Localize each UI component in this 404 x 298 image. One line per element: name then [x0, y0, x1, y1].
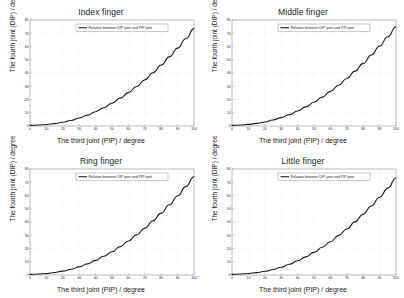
svg-text:50: 50 [312, 127, 316, 131]
svg-text:20: 20 [227, 247, 231, 251]
plot-area-ring-finger: 010203040506070809010001020304050607080R… [0, 149, 202, 298]
svg-text:10: 10 [227, 111, 231, 115]
svg-text:30: 30 [77, 127, 81, 131]
svg-text:0: 0 [29, 127, 31, 131]
svg-text:60: 60 [25, 45, 29, 49]
svg-text:30: 30 [227, 234, 231, 238]
svg-text:80: 80 [25, 18, 29, 22]
svg-text:20: 20 [263, 127, 267, 131]
svg-text:60: 60 [227, 194, 231, 198]
svg-text:100: 100 [393, 276, 399, 280]
svg-text:70: 70 [345, 127, 349, 131]
svg-text:Relation between DIP joint and: Relation between DIP joint and PIP joint [291, 175, 355, 179]
svg-text:60: 60 [227, 45, 231, 49]
svg-text:20: 20 [227, 98, 231, 102]
svg-text:0: 0 [231, 276, 233, 280]
plot-area-little-finger: 010203040506070809010001020304050607080R… [202, 149, 404, 298]
svg-text:90: 90 [378, 127, 382, 131]
svg-text:Relation between DIP joint and: Relation between DIP joint and PIP joint [89, 175, 153, 179]
figure-canvas: Index finger 010203040506070809010001020… [0, 0, 404, 298]
svg-text:50: 50 [227, 207, 231, 211]
svg-text:20: 20 [25, 247, 29, 251]
svg-text:40: 40 [94, 276, 98, 280]
svg-text:10: 10 [45, 127, 49, 131]
svg-text:40: 40 [227, 220, 231, 224]
svg-text:30: 30 [227, 85, 231, 89]
svg-text:80: 80 [159, 127, 163, 131]
svg-text:80: 80 [361, 276, 365, 280]
svg-text:30: 30 [25, 85, 29, 89]
svg-text:40: 40 [25, 220, 29, 224]
svg-text:40: 40 [94, 127, 98, 131]
svg-text:80: 80 [25, 167, 29, 171]
svg-text:60: 60 [127, 276, 131, 280]
svg-text:70: 70 [25, 32, 29, 36]
svg-text:0: 0 [231, 127, 233, 131]
svg-text:50: 50 [25, 58, 29, 62]
svg-text:70: 70 [227, 181, 231, 185]
svg-text:0: 0 [27, 273, 29, 277]
subplot-middle-finger: Middle finger 01020304050607080901000102… [202, 0, 404, 149]
svg-text:0: 0 [229, 273, 231, 277]
svg-text:0: 0 [229, 124, 231, 128]
svg-text:50: 50 [312, 276, 316, 280]
subplot-ring-finger: Ring finger 0102030405060708090100010203… [0, 149, 202, 298]
svg-text:40: 40 [296, 276, 300, 280]
svg-text:10: 10 [25, 260, 29, 264]
svg-text:0: 0 [29, 276, 31, 280]
svg-text:30: 30 [279, 276, 283, 280]
svg-text:90: 90 [176, 127, 180, 131]
svg-text:50: 50 [110, 127, 114, 131]
svg-text:100: 100 [393, 127, 399, 131]
svg-text:80: 80 [227, 167, 231, 171]
svg-text:20: 20 [61, 276, 65, 280]
svg-text:60: 60 [329, 127, 333, 131]
svg-text:20: 20 [263, 276, 267, 280]
svg-text:70: 70 [25, 181, 29, 185]
svg-text:20: 20 [25, 98, 29, 102]
svg-text:10: 10 [247, 276, 251, 280]
svg-text:40: 40 [25, 71, 29, 75]
svg-text:50: 50 [25, 207, 29, 211]
svg-text:60: 60 [329, 276, 333, 280]
svg-text:10: 10 [247, 127, 251, 131]
y-axis-label: The fourth joint (DIP) / degree [211, 127, 218, 231]
subplot-little-finger: Little finger 01020304050607080901000102… [202, 149, 404, 298]
svg-text:70: 70 [227, 32, 231, 36]
svg-text:100: 100 [191, 127, 197, 131]
svg-text:80: 80 [227, 18, 231, 22]
svg-text:90: 90 [176, 276, 180, 280]
y-axis-label: The fourth joint (DIP) / degree [211, 0, 218, 82]
svg-text:80: 80 [159, 276, 163, 280]
svg-text:20: 20 [61, 127, 65, 131]
svg-text:40: 40 [227, 71, 231, 75]
y-axis-label: The fourth joint (DIP) / degree [9, 127, 16, 231]
x-axis-label: The third joint (PIP) / degree [202, 286, 404, 293]
x-axis-label: The third joint (PIP) / degree [0, 137, 202, 144]
svg-text:70: 70 [143, 127, 147, 131]
svg-text:30: 30 [279, 127, 283, 131]
svg-text:10: 10 [25, 111, 29, 115]
svg-text:Relation between DIP joint and: Relation between DIP joint and PIP joint [291, 26, 355, 30]
svg-text:70: 70 [143, 276, 147, 280]
svg-text:40: 40 [296, 127, 300, 131]
svg-text:70: 70 [345, 276, 349, 280]
svg-text:100: 100 [191, 276, 197, 280]
svg-text:90: 90 [378, 276, 382, 280]
y-axis-label: The fourth joint (DIP) / degree [9, 0, 16, 82]
svg-text:0: 0 [27, 124, 29, 128]
svg-text:10: 10 [227, 260, 231, 264]
svg-text:60: 60 [127, 127, 131, 131]
svg-text:50: 50 [110, 276, 114, 280]
svg-text:80: 80 [361, 127, 365, 131]
svg-text:10: 10 [45, 276, 49, 280]
svg-text:Relation between DIP joint and: Relation between DIP joint and PIP joint [89, 26, 153, 30]
svg-text:30: 30 [25, 234, 29, 238]
svg-text:50: 50 [227, 58, 231, 62]
plot-area-index-finger: 010203040506070809010001020304050607080R… [0, 0, 202, 149]
x-axis-label: The third joint (PIP) / degree [0, 286, 202, 293]
x-axis-label: The third joint (PIP) / degree [202, 137, 404, 144]
plot-area-middle-finger: 010203040506070809010001020304050607080R… [202, 0, 404, 149]
subplot-index-finger: Index finger 010203040506070809010001020… [0, 0, 202, 149]
svg-text:30: 30 [77, 276, 81, 280]
